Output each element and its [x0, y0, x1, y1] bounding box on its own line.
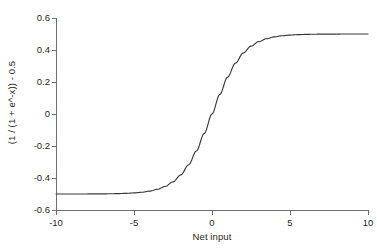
- x-tick-mark: [368, 211, 369, 215]
- y-tick-label: 0.2: [37, 77, 50, 87]
- x-tick-label: -5: [130, 218, 138, 228]
- y-tick-label: -0.2: [34, 141, 50, 151]
- sigmoid-curve-path: [56, 34, 368, 194]
- x-tick-label: -10: [49, 218, 63, 228]
- x-tick-label: 0: [209, 218, 214, 228]
- x-tick-label: 5: [287, 218, 292, 228]
- sigmoid-chart-figure: (1 / (1 + e^-x)) - 0.5 0.60.40.20-0.2-0.…: [0, 0, 377, 251]
- plot-area: 0.60.40.20-0.2-0.4-0.6 -10-50510: [56, 18, 368, 210]
- x-tick-label: 10: [363, 218, 374, 228]
- y-tick-label: -0.4: [34, 173, 50, 183]
- x-axis-title: Net input: [56, 231, 368, 242]
- y-axis-title-text: (1 / (1 + e^-x)) - 0.5: [6, 61, 17, 144]
- y-tick-label: 0.6: [37, 13, 50, 23]
- x-tick-mark: [290, 211, 291, 215]
- x-tick-mark: [212, 211, 213, 215]
- x-tick-mark: [134, 211, 135, 215]
- x-tick-mark: [56, 211, 57, 215]
- y-tick-label: 0: [45, 109, 50, 119]
- sigmoid-curve-svg: [56, 18, 368, 210]
- y-tick-label: 0.4: [37, 45, 50, 55]
- y-axis-title: (1 / (1 + e^-x)) - 0.5: [0, 0, 22, 251]
- y-tick-label: -0.6: [34, 205, 50, 215]
